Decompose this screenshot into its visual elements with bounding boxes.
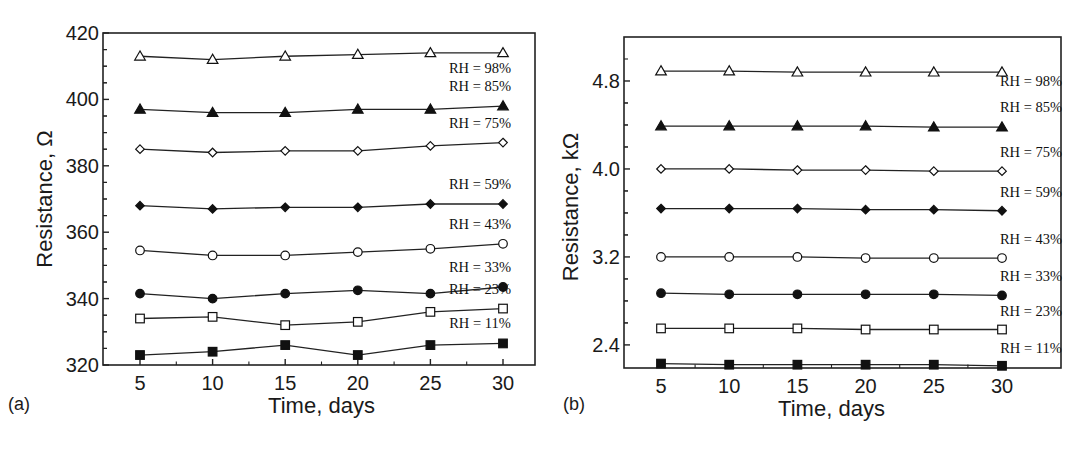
- series-line: [661, 169, 1002, 171]
- x-tick-label: 25: [923, 375, 945, 397]
- data-point-marker: [725, 290, 734, 299]
- y-axis-title: Resistance, kΩ: [558, 133, 583, 282]
- x-tick-label: 20: [347, 372, 369, 394]
- x-tick-label: 5: [134, 372, 145, 394]
- data-point-marker: [136, 314, 145, 323]
- data-point-marker: [136, 246, 145, 255]
- data-point-marker: [426, 142, 435, 151]
- x-tick-label: 30: [991, 375, 1013, 397]
- chart-panel-a: 32034036038040042051015202530Time, daysR…: [8, 22, 535, 418]
- data-point-marker: [997, 122, 1008, 131]
- series-line: [140, 244, 503, 256]
- data-point-marker: [860, 67, 871, 76]
- x-tick-label: 25: [419, 372, 441, 394]
- series-75-percent: RH = 75%: [657, 144, 1062, 175]
- data-point-marker: [725, 165, 734, 174]
- data-point-marker: [281, 147, 290, 156]
- series-label: RH = 85%: [449, 78, 511, 94]
- data-point-marker: [499, 138, 508, 147]
- data-point-marker: [930, 360, 939, 369]
- x-tick-label: 20: [854, 375, 876, 397]
- data-point-marker: [354, 248, 363, 257]
- data-point-marker: [998, 167, 1007, 176]
- y-tick-label: 4.8: [592, 70, 620, 92]
- data-point-marker: [930, 254, 939, 263]
- series-label: RH = 59%: [449, 176, 511, 192]
- series-line: [661, 257, 1002, 258]
- data-point-marker: [860, 121, 871, 130]
- data-point-marker: [657, 204, 666, 213]
- data-point-marker: [136, 289, 145, 298]
- x-axis-title: Time, days: [778, 396, 885, 421]
- data-point-marker: [425, 48, 436, 57]
- data-point-marker: [208, 251, 217, 260]
- series-label: RH = 23%: [449, 281, 511, 297]
- data-point-marker: [281, 251, 290, 260]
- data-point-marker: [426, 289, 435, 298]
- data-point-marker: [281, 289, 290, 298]
- data-point-marker: [354, 147, 363, 156]
- series-11-percent: RH = 11%: [136, 315, 511, 359]
- data-point-marker: [135, 51, 146, 60]
- data-point-marker: [354, 203, 363, 212]
- data-point-marker: [998, 362, 1007, 371]
- data-point-marker: [426, 308, 435, 317]
- data-point-marker: [998, 325, 1007, 334]
- x-axis-title: Time, days: [268, 393, 375, 418]
- data-point-marker: [426, 341, 435, 350]
- data-point-marker: [930, 167, 939, 176]
- series-98-percent: RH = 98%: [135, 48, 511, 76]
- series-33-percent: RH = 33%: [657, 268, 1062, 299]
- series-line: [140, 143, 503, 153]
- data-point-marker: [426, 245, 435, 254]
- y-tick-label: 4.0: [592, 158, 620, 180]
- figure-canvas: 32034036038040042051015202530Time, daysR…: [0, 0, 1087, 466]
- data-point-marker: [930, 325, 939, 334]
- data-point-marker: [861, 205, 870, 214]
- data-point-marker: [353, 104, 364, 113]
- series-line: [140, 343, 503, 355]
- data-point-marker: [725, 204, 734, 213]
- data-point-marker: [208, 148, 217, 157]
- x-tick-label: 15: [274, 372, 296, 394]
- series-43-percent: RH = 43%: [657, 231, 1062, 262]
- data-point-marker: [656, 66, 667, 75]
- data-point-marker: [354, 351, 363, 360]
- data-point-marker: [657, 253, 666, 262]
- x-tick-label: 30: [492, 372, 514, 394]
- series-label: RH = 43%: [1000, 231, 1062, 247]
- data-point-marker: [499, 200, 508, 209]
- data-point-marker: [498, 101, 509, 110]
- series-line: [661, 293, 1002, 295]
- data-point-marker: [930, 205, 939, 214]
- data-point-marker: [725, 253, 734, 262]
- data-point-marker: [281, 203, 290, 212]
- data-point-marker: [861, 325, 870, 334]
- data-point-marker: [657, 289, 666, 298]
- series-85-percent: RH = 85%: [656, 99, 1062, 131]
- data-point-marker: [208, 205, 217, 214]
- y-tick-label: 320: [66, 354, 99, 376]
- data-point-marker: [657, 165, 666, 174]
- series-label: RH = 98%: [1000, 73, 1062, 89]
- series-59-percent: RH = 59%: [657, 184, 1062, 215]
- data-point-marker: [861, 360, 870, 369]
- data-point-marker: [354, 286, 363, 295]
- series-label: RH = 43%: [449, 216, 511, 232]
- data-point-marker: [725, 324, 734, 333]
- series-75-percent: RH = 75%: [136, 115, 511, 157]
- data-point-marker: [353, 49, 364, 58]
- data-point-marker: [998, 291, 1007, 300]
- panel-label: (b): [563, 394, 585, 414]
- data-point-marker: [136, 201, 145, 210]
- data-point-marker: [861, 166, 870, 175]
- x-tick-label: 15: [786, 375, 808, 397]
- data-point-marker: [657, 359, 666, 368]
- data-point-marker: [725, 360, 734, 369]
- data-point-marker: [657, 324, 666, 333]
- data-point-marker: [793, 166, 802, 175]
- y-tick-label: 360: [66, 221, 99, 243]
- y-tick-label: 380: [66, 155, 99, 177]
- series-98-percent: RH = 98%: [656, 66, 1062, 89]
- data-point-marker: [498, 48, 509, 57]
